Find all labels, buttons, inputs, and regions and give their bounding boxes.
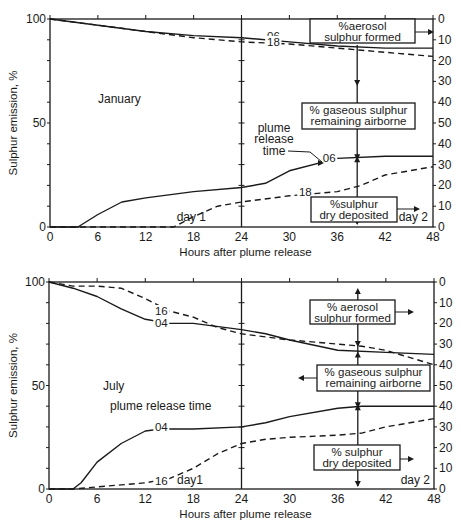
x-tick-label: 24 bbox=[235, 230, 249, 244]
y-tick-label-left: 100 bbox=[25, 275, 45, 289]
panel-title: July bbox=[103, 379, 124, 393]
aerosol-sulphur-box-text: sulphur formed bbox=[324, 31, 401, 43]
y-tick-label-right: 10 bbox=[439, 296, 453, 310]
series-label: 16 bbox=[155, 475, 168, 487]
y-tick-label-right: 10 bbox=[439, 461, 453, 475]
x-axis-label: Hours after plume release bbox=[179, 246, 311, 258]
x-tick-label: 18 bbox=[187, 492, 201, 506]
figure: 0612182430364248Hours after plume releas… bbox=[0, 0, 461, 530]
dry-deposited-box-text: dry deposited bbox=[322, 457, 391, 469]
y-tick-label-right: 10 bbox=[438, 199, 452, 213]
chart-panel-july: 0612182430364248Hours after plume releas… bbox=[7, 275, 453, 520]
panel-title: January bbox=[98, 92, 141, 106]
arrow-up-icon bbox=[355, 351, 361, 357]
y-tick-label-right: 40 bbox=[439, 399, 453, 413]
day-2-label: day 2 bbox=[401, 473, 431, 487]
gaseous-sulphur-box-text: remaining airborne bbox=[311, 115, 407, 127]
arrow-right-icon bbox=[408, 309, 414, 315]
x-tick-label: 36 bbox=[331, 230, 345, 244]
x-tick-label: 36 bbox=[331, 492, 345, 506]
x-tick-label: 42 bbox=[378, 230, 392, 244]
dry-deposited-box-text: dry deposited bbox=[319, 209, 388, 221]
gaseous-sulphur-box-text: remaining airborne bbox=[326, 377, 422, 389]
y-tick-label-right: 0 bbox=[438, 12, 445, 26]
y-tick-label-right: 10 bbox=[438, 33, 452, 47]
y-tick-label-right: 0 bbox=[438, 220, 445, 234]
arrow-left-icon bbox=[298, 375, 304, 381]
y-tick-label-right: 0 bbox=[439, 482, 446, 496]
x-tick-label: 30 bbox=[283, 230, 297, 244]
y-axis-label: Sulphur emission, % bbox=[7, 71, 19, 176]
aerosol-sulphur-box-text: sulphur formed bbox=[314, 312, 391, 324]
series-label: 18 bbox=[299, 186, 312, 198]
arrow-down-icon bbox=[354, 80, 360, 86]
y-tick-label-right: 30 bbox=[438, 158, 452, 172]
x-tick-label: 24 bbox=[235, 492, 249, 506]
y-tick-label-right: 30 bbox=[439, 420, 453, 434]
series-label: 04 bbox=[155, 317, 168, 329]
y-tick-label-right: 40 bbox=[439, 358, 453, 372]
x-tick-label: 18 bbox=[187, 230, 201, 244]
y-tick-label-right: 40 bbox=[438, 137, 452, 151]
y-tick-label-right: 20 bbox=[439, 316, 453, 330]
series-label: 16 bbox=[155, 305, 168, 317]
series-label: 04 bbox=[155, 421, 168, 433]
y-tick-label-right: 30 bbox=[439, 337, 453, 351]
day-2-label: day 2 bbox=[399, 210, 429, 224]
y-tick-label-left: 100 bbox=[26, 12, 46, 26]
x-tick-label: 6 bbox=[95, 230, 102, 244]
y-tick-label-right: 0 bbox=[439, 275, 446, 289]
day-1-label: day1 bbox=[177, 473, 203, 487]
arrow-down-icon bbox=[355, 481, 361, 487]
x-tick-label: 6 bbox=[94, 492, 101, 506]
x-tick-label: 12 bbox=[139, 230, 153, 244]
annotation-pointer bbox=[288, 151, 322, 162]
annotation-text: time bbox=[263, 144, 286, 158]
y-tick-label-left: 0 bbox=[39, 220, 46, 234]
y-tick-label-left: 50 bbox=[33, 116, 47, 130]
series-label: 06 bbox=[323, 152, 336, 164]
y-tick-label-left: 0 bbox=[38, 482, 45, 496]
x-tick-label: 0 bbox=[46, 492, 53, 506]
y-tick-label-right: 40 bbox=[438, 95, 452, 109]
y-tick-label-left: 50 bbox=[32, 379, 46, 393]
x-axis-label: Hours after plume release bbox=[179, 508, 311, 520]
annotation-text: plume release time bbox=[110, 399, 212, 413]
arrow-right-icon bbox=[408, 456, 414, 462]
arrow-up-icon bbox=[355, 288, 361, 294]
x-tick-label: 12 bbox=[139, 492, 153, 506]
y-tick-label-right: 50 bbox=[439, 379, 453, 393]
y-tick-label-right: 30 bbox=[438, 74, 452, 88]
series-label: 18 bbox=[267, 36, 280, 48]
y-tick-label-right: 20 bbox=[438, 54, 452, 68]
x-tick-label: 30 bbox=[283, 492, 297, 506]
y-tick-label-right: 50 bbox=[438, 116, 452, 130]
x-tick-label: 42 bbox=[379, 492, 393, 506]
y-axis-label: Sulphur emission, % bbox=[7, 333, 19, 438]
y-tick-label-right: 20 bbox=[438, 178, 452, 192]
y-tick-label-right: 20 bbox=[439, 441, 453, 455]
x-tick-label: 0 bbox=[47, 230, 54, 244]
chart-panel-january: 0612182430364248Hours after plume releas… bbox=[7, 12, 452, 258]
